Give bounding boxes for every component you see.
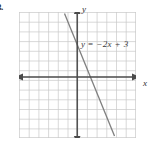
graph-figure: 3. xyxy=(0,0,154,149)
problem-number: 3. xyxy=(0,2,3,12)
graph-canvas xyxy=(19,12,136,138)
x-axis-label: x xyxy=(143,79,147,88)
equation-equals: = xyxy=(88,39,93,49)
equation-lhs: y xyxy=(81,39,85,49)
equation-rhs: −2x + 3 xyxy=(96,39,128,49)
coordinate-plane xyxy=(19,12,136,138)
equation-annotation: y = −2x + 3 xyxy=(81,39,129,50)
y-axis-label: y xyxy=(82,5,86,14)
